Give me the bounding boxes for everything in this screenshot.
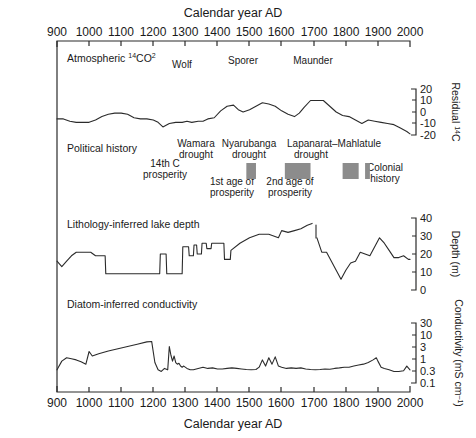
event-label-maunder: Maunder: [293, 55, 333, 66]
political-item-colonial-l1: Colonial: [367, 162, 403, 173]
y-tick-label: 1: [420, 353, 426, 365]
panel-political: Political history Wamara drought 14th C …: [67, 138, 403, 198]
diatom-axis-title: Conductivity (mS cm–1): [453, 299, 465, 407]
panel-lithology: Lithology-inferred lake depth 40 30 20 1…: [57, 212, 462, 296]
panel-diatom: Diatom-inferred conductivity 30 10 3 1 0…: [57, 298, 465, 407]
carbon-right-axis: 20 10 0 -10 -20 Residual 14C: [411, 82, 462, 142]
x-tick-label: 1700: [301, 396, 328, 410]
x-tick-label: 1500: [236, 25, 263, 39]
event-label-wolf: Wolf: [172, 59, 192, 70]
x-tick-label: 900: [47, 25, 67, 39]
political-item-wamara-l1: Wamara: [177, 138, 215, 149]
panel-political-label: Political history: [67, 142, 138, 154]
political-block: [285, 163, 311, 179]
x-tick-label: 1500: [236, 396, 263, 410]
lithology-right-axis: 40 30 20 10 0 Depth (m): [411, 212, 462, 296]
x-tick-label: 1400: [204, 25, 231, 39]
y-tick-label: -10: [420, 117, 436, 129]
y-tick-label: 10: [420, 266, 432, 278]
political-item-wamara-l2: drought: [179, 149, 213, 160]
x-tick-label: 1100: [108, 25, 134, 39]
y-tick-label: 0.1: [420, 377, 435, 389]
political-item-colonial-l2: history: [370, 173, 399, 184]
x-tick-label: 1200: [140, 25, 167, 39]
y-tick-label: 20: [420, 248, 432, 260]
x-tick-label: 1000: [76, 396, 103, 410]
political-item-2ndage-l2: prosperity: [268, 187, 312, 198]
x-tick-label: 1400: [204, 396, 231, 410]
political-item-14thc-l2: prosperity: [143, 169, 187, 180]
x-tick-label: 1100: [108, 396, 134, 410]
panel-carbon: Atmospheric 14CO2 Wolf Sporer Maunder 20…: [57, 52, 462, 142]
lithology-series-b: [317, 238, 410, 279]
y-tick-label: 10: [420, 329, 432, 341]
x-tick-label: 2000: [397, 25, 424, 39]
x-tick-label: 1600: [268, 25, 295, 39]
diatom-series: [57, 341, 410, 371]
political-item-14thc-l1: 14th C: [150, 158, 179, 169]
y-tick-label: 30: [420, 317, 432, 329]
carbon-series: [57, 101, 410, 134]
event-label-sporer: Sporer: [228, 55, 259, 66]
x-tick-label: 1700: [301, 25, 328, 39]
x-tick-label: 1600: [268, 396, 295, 410]
y-tick-label: -20: [420, 129, 436, 141]
y-tick-label: 0.3: [420, 365, 435, 377]
political-block: [246, 163, 256, 179]
y-tick-label: 10: [420, 94, 432, 106]
x-tick-label: 1900: [365, 25, 392, 39]
bottom-axis: [57, 386, 410, 392]
political-blocks: [246, 163, 370, 179]
y-tick-label: 0: [420, 284, 426, 296]
y-tick-label: 30: [420, 230, 432, 242]
panel-carbon-label: Atmospheric 14CO2: [67, 52, 156, 64]
political-item-lapanarat-l1: Lapanarat–Mahlatule: [287, 138, 381, 149]
x-tick-label: 2000: [397, 396, 424, 410]
top-tick-labels: 900 1000 1100 1200 1300 1400 1500 1600 1…: [47, 25, 424, 39]
x-tick-label: 1000: [76, 25, 103, 39]
political-item-1stage-l2: prosperity: [210, 187, 254, 198]
panel-lithology-label: Lithology-inferred lake depth: [67, 218, 200, 230]
political-item-lapanarat-l2: drought: [294, 149, 328, 160]
lithology-axis-title: Depth (m): [450, 231, 462, 278]
x-tick-label: 1300: [172, 25, 199, 39]
x-tick-label: 900: [47, 396, 67, 410]
lithology-series-a: [57, 223, 312, 273]
diatom-right-axis: 30 10 3 1 0.3 0.1 Conductivity (mS cm–1): [411, 299, 465, 407]
figure-svg: Calendar year AD 900 1000 1100 1200 1300…: [0, 0, 476, 438]
x-tick-label: 1900: [365, 396, 392, 410]
x-tick-label: 1300: [172, 396, 199, 410]
y-tick-label: 40: [420, 212, 432, 224]
x-tick-label: 1800: [333, 396, 360, 410]
top-axis-title: Calendar year AD: [184, 6, 283, 20]
top-axis: [57, 41, 410, 47]
x-tick-label: 1200: [140, 396, 167, 410]
bottom-tick-labels: 900 1000 1100 1200 1300 1400 1500 1600 1…: [47, 396, 424, 410]
political-item-nyarubanga-l2: drought: [232, 149, 266, 160]
panel-diatom-label: Diatom-inferred conductivity: [67, 298, 198, 310]
figure-root: Calendar year AD 900 1000 1100 1200 1300…: [0, 0, 476, 438]
political-item-nyarubanga-l1: Nyarubanga: [222, 138, 277, 149]
y-tick-label: 3: [420, 341, 426, 353]
carbon-axis-title: Residual 14C: [450, 82, 462, 142]
x-tick-label: 1800: [333, 25, 360, 39]
political-block: [365, 163, 370, 179]
political-block: [343, 163, 359, 179]
bottom-axis-title: Calendar year AD: [184, 417, 283, 431]
